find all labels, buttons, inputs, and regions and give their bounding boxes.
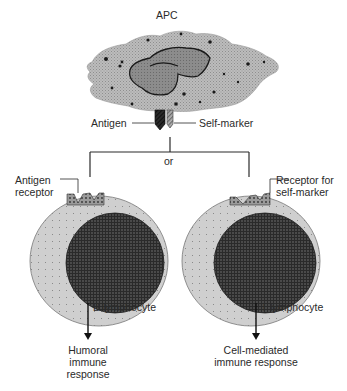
antigen-receptor-label-line1: Antigen (15, 174, 51, 186)
b-lymphocyte-cell (30, 179, 168, 340)
b-cell-nucleus (66, 213, 164, 313)
b-lymphocyte-label: B lymphocyte (93, 301, 156, 313)
antigen-shape (155, 110, 165, 130)
cell-mediated-response-line2: immune response (206, 356, 306, 368)
t-cell-arrow-head (252, 333, 260, 340)
antigen-receptor-label-line2: receptor (15, 186, 54, 198)
apc-label: APC (156, 9, 178, 21)
humoral-response-line1: Humoral (58, 344, 118, 356)
cell-mediated-response-line1: Cell-mediated (206, 344, 306, 356)
t-cell-nucleus (214, 213, 316, 313)
b-cell-arrow-head (84, 333, 92, 340)
humoral-response-line2: immune (58, 356, 118, 368)
self-marker-receptor-label-line2: self-marker (276, 186, 329, 198)
t-lymphocyte-cell (182, 179, 320, 340)
self-marker-receptor-label-line1: Receptor for (276, 174, 334, 186)
or-label: or (164, 155, 173, 167)
antigen-label: Antigen (91, 117, 127, 129)
t-lymphocyte-label: T lymphocyte (261, 301, 323, 313)
self-marker-shape (167, 110, 173, 128)
apc-cell (87, 31, 278, 111)
self-marker-label: Self-marker (199, 117, 253, 129)
t-cell-self-marker-receptor (230, 193, 270, 205)
b-cell-antigen-receptor (67, 193, 104, 205)
antigen-receptor-leader (60, 179, 78, 193)
humoral-response-line3: response (58, 368, 118, 380)
